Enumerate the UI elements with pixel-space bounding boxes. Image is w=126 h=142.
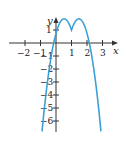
y-tick-label: −5 <box>40 103 54 113</box>
y-tick-label: −2 <box>40 64 53 74</box>
parabola-chart: −2 −1 1 2 3 1 −1 −2 −3 −4 −5 −6 y x <box>0 0 126 142</box>
y-tick-label: 1 <box>46 25 52 35</box>
x-axis-label: x <box>113 45 119 56</box>
y-axis-label: y <box>46 15 53 26</box>
x-tick-label: 1 <box>69 48 75 58</box>
x-tick-label: 3 <box>100 48 106 58</box>
y-axis-arrow-icon <box>54 17 59 23</box>
parabola-curve <box>42 19 101 132</box>
x-tick-label: −2 <box>17 48 30 58</box>
x-tick-label: 2 <box>85 48 91 58</box>
